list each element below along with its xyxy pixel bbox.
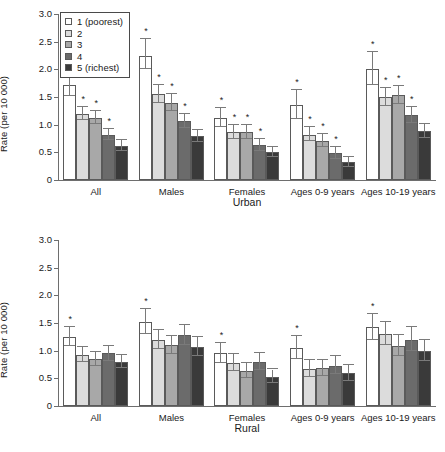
bar-slot[interactable]: * <box>405 14 418 180</box>
bar[interactable] <box>89 118 102 180</box>
bar[interactable] <box>102 353 115 406</box>
y-axis-tick-label: 0 <box>24 175 52 185</box>
bar-slot[interactable]: * <box>366 14 379 180</box>
error-bar <box>322 360 323 377</box>
bar[interactable] <box>115 146 128 180</box>
error-bar-cap <box>393 355 404 356</box>
bar-slot[interactable]: * <box>290 240 303 406</box>
bar-slot[interactable] <box>266 14 279 180</box>
bar-slot[interactable]: * <box>379 14 392 180</box>
error-bar-cap <box>291 335 302 336</box>
legend-item-label: 4 <box>77 52 82 62</box>
bar-slot[interactable]: * <box>139 240 152 406</box>
bar-slot[interactable] <box>191 14 204 180</box>
bar[interactable] <box>139 322 152 406</box>
bar-group: ****Females <box>209 14 285 180</box>
bar-slot[interactable] <box>316 240 329 406</box>
bar[interactable] <box>366 69 379 180</box>
bar-slot[interactable] <box>329 240 342 406</box>
bar-slot[interactable] <box>178 240 191 406</box>
bar[interactable] <box>152 340 165 406</box>
bar-slot[interactable]: * <box>290 14 303 180</box>
bar-group: *Ages 10-19 years <box>360 240 436 406</box>
error-bar <box>171 94 172 111</box>
bar-slot[interactable] <box>405 240 418 406</box>
error-bar-cap <box>215 107 226 108</box>
bar-slot[interactable]: * <box>227 14 240 180</box>
error-bar-cap <box>140 38 151 39</box>
bar[interactable] <box>240 132 253 180</box>
bar[interactable] <box>139 56 152 181</box>
bar-slot[interactable] <box>379 240 392 406</box>
error-bar-cap <box>406 326 417 327</box>
error-bar-cap <box>367 339 378 340</box>
error-bar <box>82 347 83 362</box>
error-bar-cap <box>406 350 417 351</box>
bar-slot[interactable] <box>418 240 431 406</box>
bar-slot[interactable]: * <box>303 14 316 180</box>
bar[interactable] <box>392 95 405 180</box>
bar-slot[interactable] <box>165 240 178 406</box>
error-bar-cap <box>228 353 239 354</box>
bar-slot[interactable]: * <box>240 14 253 180</box>
bar[interactable] <box>76 114 89 180</box>
bar-slot[interactable]: * <box>253 14 266 180</box>
legend-item-label: 1 (poorest) <box>77 17 123 27</box>
bar[interactable] <box>379 97 392 180</box>
bar-slot[interactable]: * <box>316 14 329 180</box>
bar-slot[interactable] <box>303 240 316 406</box>
error-bar-cap <box>380 344 391 345</box>
bar[interactable] <box>178 121 191 180</box>
bar-slot[interactable] <box>392 240 405 406</box>
bar-slot[interactable]: * <box>152 14 165 180</box>
bar[interactable] <box>165 103 178 180</box>
bar-slot[interactable] <box>115 240 128 406</box>
bar[interactable] <box>152 94 165 180</box>
bar[interactable] <box>76 355 89 406</box>
error-bar-cap <box>215 342 226 343</box>
error-bar-cap <box>343 380 354 381</box>
bar-slot[interactable]: * <box>214 14 227 180</box>
bar-slot[interactable] <box>102 240 115 406</box>
bar-slot[interactable] <box>253 240 266 406</box>
bar[interactable] <box>303 135 316 180</box>
bar-slot[interactable] <box>191 240 204 406</box>
bar-slot[interactable] <box>152 240 165 406</box>
bar[interactable] <box>165 345 178 406</box>
y-axis-tick-label: 0.5 <box>24 147 52 157</box>
error-bar-cap <box>166 93 177 94</box>
bar-slot[interactable] <box>342 14 355 180</box>
bar-slot[interactable]: * <box>139 14 152 180</box>
bar[interactable] <box>227 132 240 180</box>
bar-slot[interactable] <box>240 240 253 406</box>
bar[interactable] <box>63 85 76 180</box>
bar-slot[interactable] <box>266 240 279 406</box>
bar-slot[interactable] <box>89 240 102 406</box>
error-bar-cap <box>116 139 127 140</box>
bar[interactable] <box>63 337 76 406</box>
error-bar <box>259 353 260 370</box>
bar[interactable] <box>102 135 115 180</box>
bar[interactable] <box>418 131 431 180</box>
error-bar-cap <box>330 373 341 374</box>
bar[interactable] <box>405 115 418 180</box>
bar-slot[interactable]: * <box>214 240 227 406</box>
bar-slot[interactable] <box>227 240 240 406</box>
bar[interactable] <box>178 335 191 406</box>
error-bar-cap <box>192 355 203 356</box>
bar-slot[interactable] <box>418 14 431 180</box>
bar-slot[interactable]: * <box>178 14 191 180</box>
legend-item: 1 (poorest) <box>65 16 123 28</box>
bar-slot[interactable]: * <box>392 14 405 180</box>
bar-slot[interactable]: * <box>366 240 379 406</box>
bar-slot[interactable]: * <box>329 14 342 180</box>
error-bar-cap <box>304 376 315 377</box>
bar-slot[interactable] <box>342 240 355 406</box>
bar-slot[interactable]: * <box>165 14 178 180</box>
error-bar <box>296 336 297 359</box>
bar[interactable] <box>89 359 102 406</box>
bar[interactable] <box>191 136 204 180</box>
plot-area-rural: 00.51.01.52.02.53.0*All*Males*Females*Ag… <box>58 240 436 406</box>
bar-slot[interactable] <box>76 240 89 406</box>
bar-slot[interactable]: * <box>63 240 76 406</box>
